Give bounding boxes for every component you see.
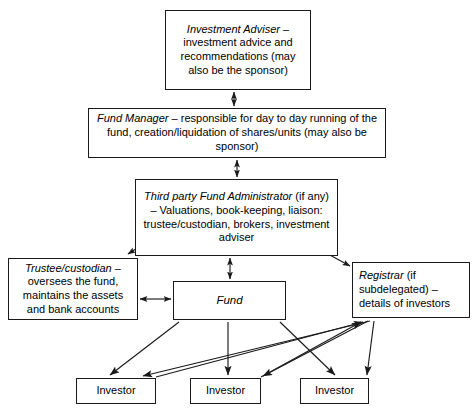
node-investor-1[interactable]: Investor: [76, 378, 156, 404]
node-fund-administrator[interactable]: Third party Fund Administrator (if any) …: [135, 179, 338, 256]
edge-investor2-registrar: [261, 322, 361, 377]
node-trustee-custodian-label: Trustee/custodian – oversees the fund, m…: [9, 262, 137, 317]
edge-registrar-investor1: [143, 321, 370, 376]
node-investor-1-label: Investor: [91, 384, 140, 398]
edge-investor1-registrar: [156, 322, 363, 377]
node-investor-2[interactable]: Investor: [190, 378, 261, 404]
node-registrar-label: Registrar (if subdelegated) – details of…: [353, 269, 469, 310]
node-investment-adviser[interactable]: Investment Adviser – investment advice a…: [165, 10, 311, 90]
node-fund[interactable]: Fund: [173, 281, 286, 320]
edge-fund-investor1: [110, 322, 179, 375]
diagram-canvas: Investment Adviser – investment advice a…: [0, 0, 474, 414]
edge-registrar-investor2: [263, 321, 368, 376]
edge-registrar-investor3: [367, 321, 374, 375]
node-trustee-custodian[interactable]: Trustee/custodian – oversees the fund, m…: [8, 258, 138, 320]
node-investor-3-label: Investor: [310, 384, 359, 398]
node-fund-manager[interactable]: Fund Manager – responsible for day to da…: [88, 108, 386, 158]
node-fund-manager-label: Fund Manager – responsible for day to da…: [89, 112, 385, 153]
node-investor-3[interactable]: Investor: [300, 378, 369, 404]
node-investor-2-label: Investor: [201, 384, 250, 398]
node-investment-adviser-label: Investment Adviser – investment advice a…: [166, 23, 310, 78]
node-fund-label: Fund: [211, 293, 247, 307]
node-registrar[interactable]: Registrar (if subdelegated) – details of…: [352, 262, 470, 318]
node-fund-administrator-label: Third party Fund Administrator (if any) …: [136, 190, 337, 245]
edge-fund-investor3: [280, 322, 335, 375]
